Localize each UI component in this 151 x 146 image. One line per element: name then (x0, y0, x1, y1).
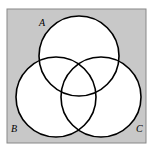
set-b-label: B (11, 123, 17, 134)
set-c-label: C (136, 123, 143, 134)
venn-diagram: A B C (0, 0, 151, 146)
set-a-label: A (38, 17, 46, 28)
